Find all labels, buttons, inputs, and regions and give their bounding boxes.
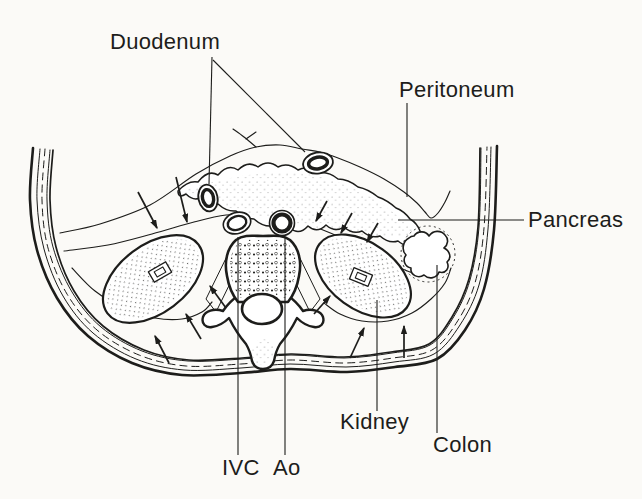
colon-section xyxy=(403,231,450,277)
figure-page: Duodenum Peritoneum Pancreas Kidney Colo… xyxy=(0,0,642,499)
peritoneum-twig xyxy=(246,132,256,139)
left-kidney xyxy=(87,218,219,341)
leader-duodenum-2 xyxy=(213,60,305,152)
label-colon: Colon xyxy=(433,432,492,457)
space-arrow-8 xyxy=(155,336,169,363)
spinal-canal xyxy=(242,294,282,324)
label-ao: Ao xyxy=(273,455,301,480)
peritoneum-branch xyxy=(233,129,256,147)
label-duodenum: Duodenum xyxy=(110,29,220,54)
vertebral-body-stipple xyxy=(230,240,296,298)
label-ivc: IVC xyxy=(222,455,260,480)
label-pancreas: Pancreas xyxy=(528,207,623,232)
arch-stipple xyxy=(252,339,274,365)
space-arrow-9 xyxy=(186,314,201,339)
label-kidney: Kidney xyxy=(340,409,409,434)
figure-canvas: Duodenum Peritoneum Pancreas Kidney Colo… xyxy=(0,0,642,499)
space-arrow-1 xyxy=(138,192,157,228)
label-peritoneum: Peritoneum xyxy=(399,77,515,102)
space-arrow-10 xyxy=(350,328,364,358)
aorta-vessel xyxy=(270,211,295,236)
